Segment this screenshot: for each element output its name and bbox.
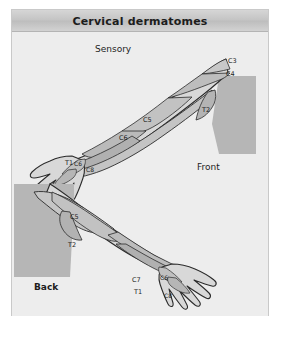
dermatome-illustration: C3 C4 C5 C6 T2 T1 C6 C8 [12,32,268,316]
label-c6-lower-hand: C6 [160,274,168,281]
caption-sensory: Sensory [95,44,131,54]
upper-torso [212,76,256,154]
label-c6-upper-hand: C6 [74,160,82,167]
caption-back: Back [34,282,58,292]
upper-figure-group: C3 C4 C5 C6 T2 T1 C6 C8 [30,57,256,203]
label-c6-upper-arm: C6 [119,134,128,142]
label-c7-lower: C7 [132,276,141,284]
illustration-area: C3 C4 C5 C6 T2 T1 C6 C8 [12,32,268,316]
label-c3-upper: C3 [228,57,237,65]
label-c5-lower: C5 [70,213,79,221]
label-c8-upper-hand: C8 [86,166,94,173]
label-c5-upper: C5 [143,116,152,124]
label-t2-lower: T2 [67,241,76,249]
figure-title: Cervical dermatomes [12,10,268,32]
label-t2-upper: T2 [201,106,210,114]
label-c4-upper: C4 [226,70,235,78]
label-c8-lower-hand: C8 [164,292,172,299]
lower-hand [159,264,217,309]
caption-front: Front [197,162,220,172]
figure-panel: Cervical dermatomes [11,9,269,316]
label-t1-upper: T1 [64,159,73,167]
figure-title-bar: Cervical dermatomes [12,10,268,32]
label-t1-lower: T1 [133,288,142,296]
